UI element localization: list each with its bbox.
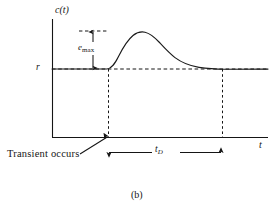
duration-label-subscript: D [158,148,163,156]
duration-label: tD [155,145,163,155]
y-axis-label: c(t) [55,5,69,15]
x-axis-label: t [259,140,262,150]
overshoot-label: emax [78,43,94,52]
transient-response-figure: c(t) t r emax tD Transient occurs (b) [0,0,279,211]
figure-caption: (b) [131,190,143,200]
overshoot-label-subscript: max [82,46,94,54]
reference-level-label: r [36,63,40,73]
transient-pointer-arrow [80,138,107,155]
plot-canvas [0,0,279,211]
transient-annotation: Transient occurs [7,149,80,160]
